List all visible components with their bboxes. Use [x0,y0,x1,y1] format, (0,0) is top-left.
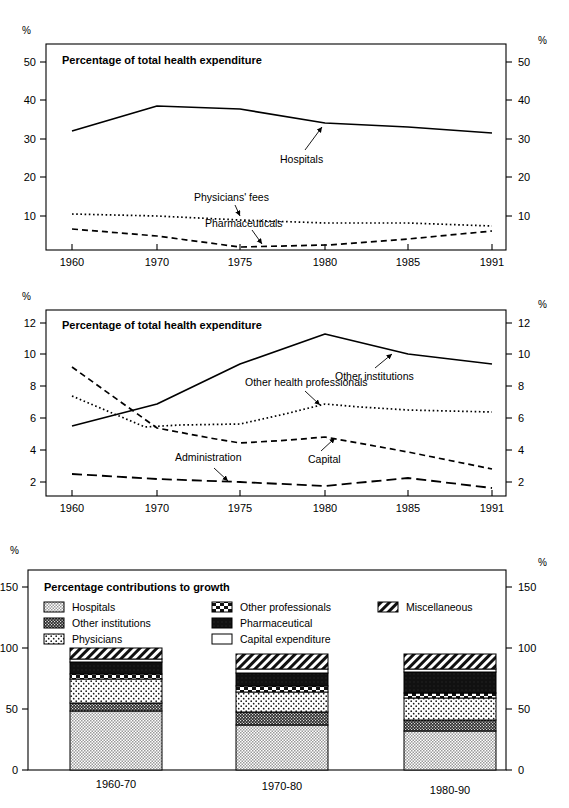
annotation-administration-label: Administration [175,451,242,463]
legend-swatch-hospitals [44,602,64,612]
bottom-ytick-150: 150 [0,581,18,593]
stacked-bar-1980-90[interactable] [404,654,496,770]
chart-panel-top: % % 50 40 30 20 10 [0,22,569,272]
top-right-ytick-20: 20 [518,171,530,183]
bottom-right-unit-label: % [538,557,547,568]
middle-right-ytick-12: 12 [518,317,530,329]
bar-segment-pharmaceutical [404,672,496,693]
annotation-physicians-fees-label: Physicians' fees [194,191,269,203]
bar-segment-capital-expenditure [236,669,328,673]
middle-right-ytick-6: 6 [518,412,524,424]
bar-segment-physicians [236,692,328,712]
bar-segment-miscellaneous [70,648,162,659]
middle-ytick-12: 12 [24,317,36,329]
top-xtick-1975: 1975 [228,256,252,268]
bottom-panel-title: Percentage contributions to growth [44,581,230,593]
legend-item-physicians[interactable]: Physicians [44,633,122,645]
legend-item-hospitals[interactable]: Hospitals [44,601,115,613]
middle-ytick-6: 6 [30,412,36,424]
middle-xtick-1975: 1975 [228,502,252,514]
legend-swatch-capital-expenditure [212,634,232,644]
legend-label-capital-expenditure: Capital expenditure [240,633,331,645]
legend-swatch-pharmaceutical [212,618,232,628]
legend-label-other-professionals: Other professionals [240,601,331,613]
middle-left-unit-label: % [22,291,31,302]
series-line-pharmaceuticals [72,229,492,247]
annotation-hospitals-label: Hospitals [280,153,323,165]
legend-label-miscellaneous: Miscellaneous [406,601,473,613]
bar-segment-other-institutions [70,703,162,711]
bottom-x-axis: 1960-70 1970-80 1980-90 [96,778,470,796]
bottom-ytick-100: 100 [0,642,18,654]
middle-xtick-1960: 1960 [60,502,84,514]
top-right-ytick-30: 30 [518,133,530,145]
bar-segment-miscellaneous [236,654,328,669]
legend-item-other-institutions[interactable]: Other institutions [44,617,151,629]
annotation-capital-label: Capital [308,453,341,465]
top-chart-svg: % % 50 40 30 20 10 [0,22,569,272]
middle-right-unit-label: % [538,299,547,310]
legend-label-pharmaceutical: Pharmaceutical [240,617,312,629]
stacked-bar-1960-70[interactable] [70,648,162,770]
top-ytick-30: 30 [24,133,36,145]
bottom-category-1980-90: 1980-90 [430,784,470,796]
bar-segment-miscellaneous [404,654,496,669]
top-right-y-axis: 50 40 30 20 10 [506,56,530,222]
bottom-right-ytick-50: 50 [518,703,530,715]
top-right-ytick-10: 10 [518,210,530,222]
legend-swatch-physicians [44,634,64,644]
stacked-bar-1970-80[interactable] [236,654,328,770]
top-ytick-20: 20 [24,171,36,183]
top-right-unit-label: % [538,35,547,46]
bottom-right-y-axis: 150 100 50 0 [506,581,536,776]
legend-label-other-institutions: Other institutions [72,617,151,629]
bar-segment-pharmaceutical [70,662,162,674]
middle-x-axis: 1960 1970 1975 1980 1985 1991 [60,490,504,514]
figure-page: % % 50 40 30 20 10 [0,0,569,808]
bar-segment-other-institutions [236,712,328,725]
bottom-ytick-0: 0 [12,764,18,776]
top-xtick-1985: 1985 [396,256,420,268]
annotation-administration: Administration [175,451,242,481]
top-left-unit-label: % [22,25,31,36]
bottom-left-y-axis: 150 100 50 0 [0,581,28,776]
bottom-ytick-50: 50 [6,703,18,715]
legend-item-capital-expenditure[interactable]: Capital expenditure [212,633,331,645]
bottom-right-ytick-0: 0 [518,764,524,776]
middle-ytick-2: 2 [30,476,36,488]
bottom-chart-svg: % % 150 100 50 0 150 100 [0,540,569,808]
bar-segment-pharmaceutical [236,673,328,686]
middle-right-y-axis: 12 10 8 6 4 2 [506,317,530,488]
bar-segment-physicians [70,679,162,703]
bottom-legend: Hospitals Other institutions Physicians … [44,601,473,645]
middle-xtick-1985: 1985 [396,502,420,514]
top-ytick-40: 40 [24,94,36,106]
legend-item-pharmaceutical[interactable]: Pharmaceutical [212,617,312,629]
bar-segment-other-professionals [236,686,328,692]
middle-ytick-8: 8 [30,380,36,392]
bottom-right-ytick-100: 100 [518,642,536,654]
bar-segment-other-professionals [404,693,496,698]
legend-item-miscellaneous[interactable]: Miscellaneous [378,601,473,613]
top-xtick-1970: 1970 [145,256,169,268]
middle-right-ytick-4: 4 [518,444,524,456]
bottom-category-1960-70: 1960-70 [96,778,136,790]
legend-swatch-other-professionals [212,602,232,612]
series-line-hospitals [72,106,492,133]
top-x-axis: 1960 1970 1975 1980 1985 1991 [60,244,504,268]
middle-xtick-1970: 1970 [145,502,169,514]
bottom-category-1970-80: 1970-80 [262,780,302,792]
bar-segment-hospitals [236,725,328,770]
top-xtick-1960: 1960 [60,256,84,268]
annotation-other-health-professionals-label: Other health professionals [245,376,368,388]
top-right-ytick-50: 50 [518,56,530,68]
top-right-ytick-40: 40 [518,94,530,106]
legend-label-physicians: Physicians [72,633,122,645]
top-ytick-10: 10 [24,210,36,222]
middle-plot-frame [46,310,506,496]
annotation-capital: Capital [308,438,341,465]
bottom-right-ytick-150: 150 [518,581,536,593]
series-line-other-health-professionals [72,396,492,427]
legend-item-other-professionals[interactable]: Other professionals [212,601,331,613]
middle-xtick-1980: 1980 [313,502,337,514]
